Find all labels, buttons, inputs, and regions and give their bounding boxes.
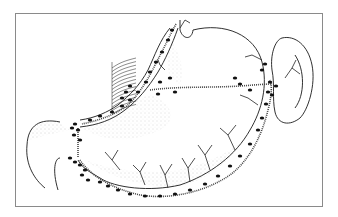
- lymph-node: [256, 129, 260, 132]
- lymph-node: [173, 91, 177, 94]
- lymph-node: [248, 143, 252, 146]
- lymph-node: [106, 185, 110, 188]
- hatch-line: [112, 76, 136, 86]
- lymph-node: [203, 183, 207, 186]
- lymph-node: [263, 63, 267, 66]
- lymph-node: [86, 179, 90, 182]
- lymph-node: [116, 189, 120, 192]
- lymph-node: [260, 69, 264, 72]
- stomach-illustration: [0, 0, 338, 217]
- lymph-node: [110, 111, 114, 114]
- lymph-node: [228, 165, 232, 168]
- lymph-node: [68, 157, 72, 160]
- spleen: [272, 37, 314, 123]
- lymph-node: [148, 71, 152, 74]
- lymph-node: [72, 134, 76, 137]
- lymph-node: [260, 117, 264, 120]
- hatch-line: [112, 79, 136, 89]
- hatch-line: [112, 72, 136, 82]
- stomach-lesser-curve: [180, 20, 193, 38]
- lymph-node: [128, 193, 132, 196]
- lymph-node: [136, 91, 140, 94]
- lymph-node: [173, 193, 177, 196]
- lymph-node: [238, 83, 242, 86]
- lymph-node: [70, 127, 74, 130]
- lymph-node: [83, 169, 87, 172]
- lymph-node: [166, 39, 170, 42]
- hatch-line: [112, 58, 136, 68]
- lymph-node: [266, 91, 270, 94]
- lymph-node: [248, 89, 252, 92]
- pylorus-bottom: [55, 158, 60, 190]
- short-gastric-vessel: [150, 84, 272, 90]
- lymph-node: [154, 61, 158, 64]
- lymph-node: [128, 85, 132, 88]
- hatch-line: [112, 62, 136, 72]
- lymph-node: [78, 164, 82, 167]
- lymph-node: [156, 93, 160, 96]
- lymph-node: [188, 189, 192, 192]
- lymph-node: [238, 155, 242, 158]
- vessel-branch: [240, 95, 258, 105]
- lymph-node: [158, 81, 162, 84]
- lymph-node: [73, 123, 77, 126]
- vessel-branch: [220, 125, 236, 150]
- vessel-branch: [180, 20, 190, 28]
- lymph-node: [168, 77, 172, 80]
- hatch-line: [112, 69, 136, 79]
- lymph-node: [98, 181, 102, 184]
- lymph-node: [78, 139, 82, 142]
- lymph-node: [264, 103, 268, 106]
- spleen-inner: [295, 55, 303, 108]
- lymph-node: [158, 195, 162, 198]
- lymph-node: [73, 161, 77, 164]
- lymph-node: [120, 105, 124, 108]
- lymph-node: [270, 94, 274, 97]
- lymph-node: [144, 81, 148, 84]
- hatch-line: [112, 65, 136, 75]
- lymph-node: [143, 195, 147, 198]
- lymph-node: [80, 174, 84, 177]
- lymph-node: [160, 51, 164, 54]
- lymph-node: [128, 99, 132, 102]
- stipple-shading: [30, 40, 245, 186]
- lymph-node: [98, 115, 102, 118]
- lymph-node: [268, 81, 272, 84]
- lymph-node: [76, 129, 80, 132]
- lymph-node: [233, 77, 237, 80]
- lymph-node: [170, 29, 174, 32]
- lymph-node: [124, 91, 128, 94]
- vessel-branch: [285, 60, 300, 78]
- lymph-node: [216, 175, 220, 178]
- lymph-node: [120, 97, 124, 100]
- lymph-node: [88, 119, 92, 122]
- lymph-node: [274, 85, 278, 88]
